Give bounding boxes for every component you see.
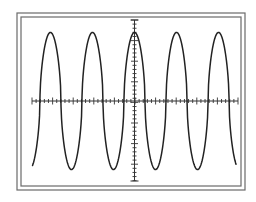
oscilloscope-display <box>0 0 256 202</box>
